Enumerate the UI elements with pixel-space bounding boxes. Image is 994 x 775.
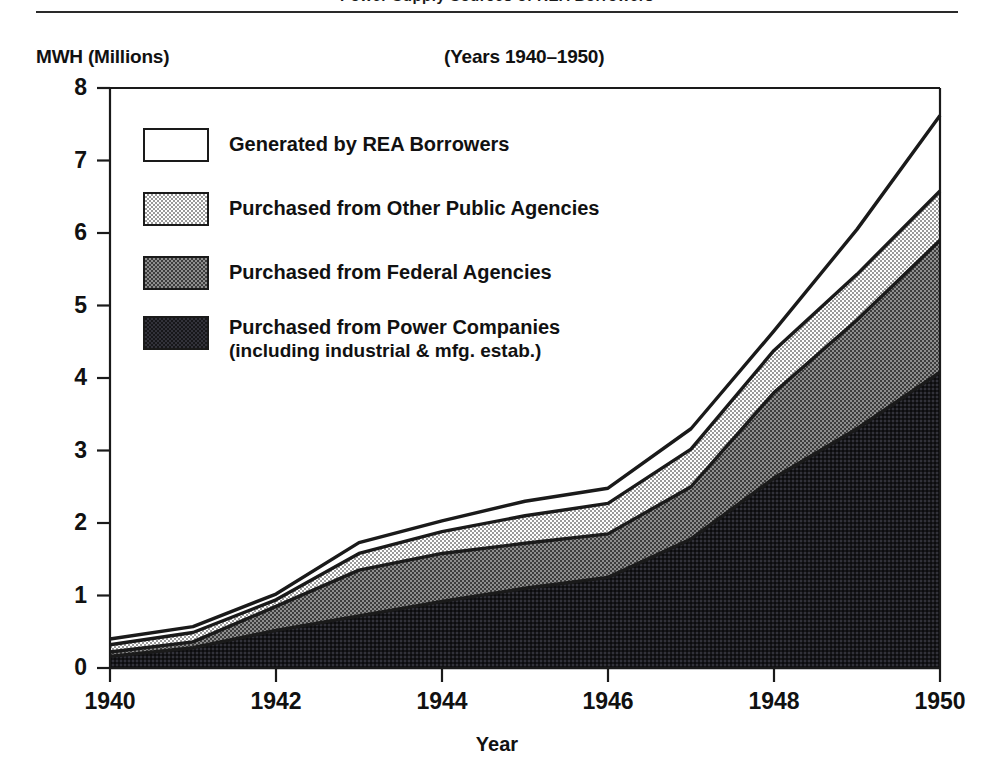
legend-label: Purchased from Other Public Agencies — [229, 197, 599, 221]
y-tick-label: 4 — [41, 366, 87, 389]
legend-label: Generated by REA Borrowers — [229, 133, 509, 157]
legend-swatch-white-open-box — [143, 128, 209, 162]
y-tick-label: 2 — [41, 511, 87, 534]
legend-label-text: Purchased from Other Public Agencies — [229, 197, 599, 219]
chart-canvas — [0, 0, 994, 775]
legend-label-text: Generated by REA Borrowers — [229, 133, 509, 155]
legend-swatch-medium-gray-box — [143, 256, 209, 290]
y-tick-label: 6 — [41, 221, 87, 244]
x-axis-title: Year — [0, 733, 994, 756]
y-tick-label: 3 — [41, 439, 87, 462]
y-tick-label: 5 — [41, 294, 87, 317]
legend-sublabel-text: (including industrial & mfg. estab.) — [229, 340, 560, 362]
legend-label: Purchased from Federal Agencies — [229, 261, 552, 285]
y-tick-label: 0 — [41, 656, 87, 679]
legend-swatch-dark-box — [143, 316, 209, 350]
x-tick-label: 1944 — [382, 690, 502, 713]
legend-label-text: Purchased from Federal Agencies — [229, 261, 552, 283]
legend-label-text: Purchased from Power Companies — [229, 316, 560, 338]
y-tick-label: 7 — [41, 149, 87, 172]
y-tick-label: 8 — [41, 76, 87, 99]
x-tick-label: 1948 — [714, 690, 834, 713]
y-tick-label: 1 — [41, 584, 87, 607]
legend-label: Purchased from Power Companies(including… — [229, 316, 560, 362]
x-tick-label: 1942 — [216, 690, 336, 713]
stacked-area-chart: 876543210 194019421944194619481950 Year … — [0, 0, 994, 775]
x-tick-label: 1946 — [548, 690, 668, 713]
x-tick-label: 1940 — [50, 690, 170, 713]
x-tick-label: 1950 — [880, 690, 994, 713]
legend-swatch-light-stipple-box — [143, 192, 209, 226]
